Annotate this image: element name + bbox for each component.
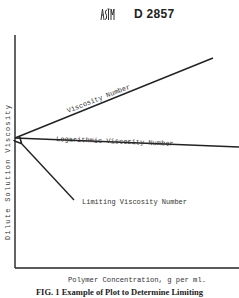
- figure-caption: FIG. 1 Example of Plot to Determine Limi…: [0, 287, 239, 297]
- viscosity-number-label: Viscosity Number: [66, 83, 131, 115]
- x-axis-label: Polymer Concentration, g per ml.: [68, 276, 206, 284]
- log-viscosity-number-label: Logarithmic Viscosity Number: [56, 135, 174, 148]
- viscosity-number-line: [15, 58, 213, 138]
- limiting-viscosity-arrow: [21, 143, 74, 200]
- limiting-viscosity-number-label: Limiting Viscosity Number: [82, 198, 187, 206]
- y-axis-label: Dilute Solution Viscosity: [4, 105, 12, 240]
- viscosity-plot: Viscosity Number Logarithmic Viscosity N…: [0, 0, 239, 298]
